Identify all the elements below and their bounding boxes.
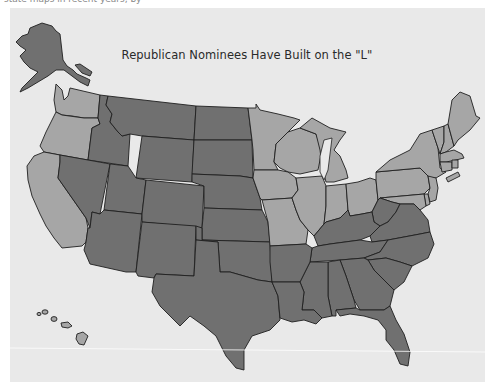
- state-wa: [54, 84, 100, 118]
- state-fl: [336, 306, 410, 366]
- state-hi: [37, 310, 88, 345]
- state-ia: [253, 170, 298, 200]
- state-ct: [440, 162, 452, 172]
- state-ri: [452, 160, 458, 168]
- state-nd: [194, 106, 252, 140]
- state-long-island: [446, 172, 460, 182]
- state-ks: [202, 208, 270, 242]
- state-nm: [136, 222, 196, 278]
- state-sd: [192, 140, 253, 178]
- state-me: [448, 92, 480, 146]
- map-title: Republican Nominees Have Built on the "L…: [0, 48, 494, 62]
- state-az: [84, 210, 142, 272]
- state-mt: [106, 96, 196, 140]
- state-nj: [428, 176, 438, 202]
- state-wy: [136, 136, 194, 182]
- state-co: [142, 180, 204, 228]
